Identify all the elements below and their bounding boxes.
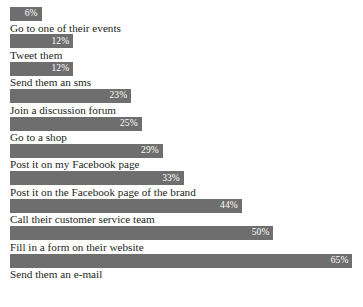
bar-value-label: 44% — [220, 201, 242, 211]
bar-track: 23% — [10, 89, 363, 103]
bar-track: 33% — [10, 171, 363, 185]
bar-row: 6%Go to one of their events — [0, 7, 363, 34]
bar: 33% — [10, 171, 184, 185]
bar: 12% — [10, 62, 73, 76]
bar-category-label: Fill in a form on their website — [10, 241, 363, 254]
bar-track: 6% — [10, 7, 363, 21]
bar-category-label: Post it on the Facebook page of the bran… — [10, 186, 363, 199]
bar-value-label: 25% — [120, 119, 142, 129]
bar-category-label: Send them an e-mail — [10, 268, 363, 281]
bar: 65% — [10, 254, 352, 268]
bar: 12% — [10, 34, 73, 48]
bar-track: 50% — [10, 226, 363, 240]
bar-value-label: 50% — [252, 228, 274, 238]
bar-row: 23%Join a discussion forum — [0, 89, 363, 116]
bar-category-label: Post it on my Facebook page — [10, 158, 363, 171]
bar-row: 25%Go to a shop — [0, 117, 363, 144]
bar-track: 44% — [10, 199, 363, 213]
bar-track: 65% — [10, 254, 363, 268]
bar-row: 50%Fill in a form on their website — [0, 226, 363, 253]
bar: 23% — [10, 89, 131, 103]
bar: 25% — [10, 117, 142, 131]
bar-track: 25% — [10, 117, 363, 131]
bar-track: 12% — [10, 34, 363, 48]
bar-value-label: 23% — [109, 91, 131, 101]
bar-chart: 6%Go to one of their events12%Tweet them… — [0, 0, 363, 307]
bar-track: 29% — [10, 144, 363, 158]
bar-row: 12%Tweet them — [0, 34, 363, 61]
bar-category-label: Send them an sms — [10, 76, 363, 89]
bar-value-label: 12% — [52, 37, 74, 47]
bar-category-label: Join a discussion forum — [10, 104, 363, 117]
bar-value-label: 33% — [162, 174, 184, 184]
bar-category-label: Tweet them — [10, 49, 363, 62]
bar-row: 33%Post it on the Facebook page of the b… — [0, 171, 363, 198]
bar: 29% — [10, 144, 163, 158]
bar-row: 29%Post it on my Facebook page — [0, 144, 363, 171]
bar-value-label: 65% — [331, 256, 353, 266]
bar: 44% — [10, 199, 242, 213]
bar: 50% — [10, 226, 273, 240]
bar-row: 44%Call their customer service team — [0, 199, 363, 226]
bar-row: 65%Send them an e-mail — [0, 254, 363, 281]
bar-category-label: Go to a shop — [10, 131, 363, 144]
bar-category-label: Go to one of their events — [10, 22, 363, 35]
bar-row: 12%Send them an sms — [0, 62, 363, 89]
bar-track: 12% — [10, 62, 363, 76]
bar-value-label: 12% — [52, 64, 74, 74]
bar: 6% — [10, 7, 42, 21]
bar-value-label: 6% — [25, 9, 42, 19]
bar-value-label: 29% — [141, 146, 163, 156]
bar-category-label: Call their customer service team — [10, 213, 363, 226]
